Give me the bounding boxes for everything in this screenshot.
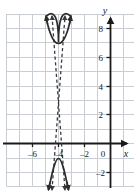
- x-tick-label-neg6: –6: [27, 149, 38, 159]
- x-axis-label: x: [123, 148, 129, 159]
- coordinate-plane-svg: 8 6 4 2 –2 –6 –4 –2 0 x y: [0, 0, 135, 192]
- x-tick-label-neg4: –4: [53, 149, 64, 159]
- y-axis-label: y: [102, 5, 108, 16]
- y-tick-label-8: 8: [99, 24, 104, 34]
- origin-label: 0: [101, 149, 106, 159]
- y-tick-label-6: 6: [99, 53, 104, 63]
- y-tick-label-4: 4: [99, 82, 104, 92]
- graph-figure: 8 6 4 2 –2 –6 –4 –2 0 x y: [0, 0, 135, 192]
- x-tick-label-neg2: –2: [79, 149, 89, 159]
- y-tick-label-2: 2: [99, 110, 104, 120]
- axes: [3, 18, 127, 188]
- y-tick-label-neg2: –2: [95, 168, 105, 178]
- grid-lines: [7, 14, 135, 187]
